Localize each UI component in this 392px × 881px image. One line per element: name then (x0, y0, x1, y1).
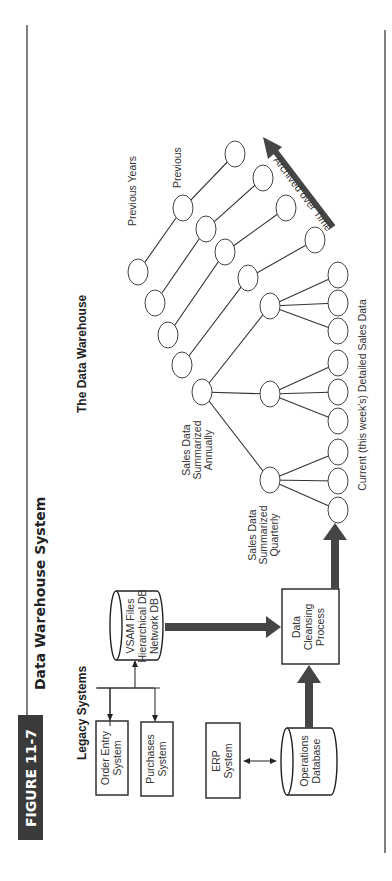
legacy-connector (96, 660, 160, 726)
svg-text:ERP: ERP (210, 750, 222, 772)
quarterly-node (260, 293, 280, 319)
archived-node (215, 239, 235, 265)
archived-over-time-arrow: Archived over Time (263, 137, 335, 233)
svg-text:System: System (222, 743, 234, 778)
archived-node (172, 352, 192, 378)
archived-node (253, 165, 273, 191)
data-cleansing-process-box: Data Cleansing Process (282, 589, 339, 664)
cleansing-to-warehouse-arrow (323, 523, 347, 589)
archived-node (305, 227, 325, 253)
svg-text:Annually: Annually (202, 429, 214, 470)
figure-badge: FIGURE 11-7 (18, 715, 43, 840)
quarterly-node (260, 467, 280, 493)
weekly-node (328, 379, 348, 405)
figure-canvas: FIGURE 11-7 Data Warehouse System Legacy… (0, 0, 392, 881)
svg-text:System: System (156, 741, 168, 776)
erp-operations-link (243, 758, 277, 764)
weekly-node (328, 439, 348, 465)
archived-node (196, 216, 216, 242)
svg-text:Network DB: Network DB (148, 598, 160, 654)
archived-node (238, 265, 258, 291)
svg-text:Hierarchical DB: Hierarchical DB (136, 590, 148, 663)
archived-node (225, 141, 245, 167)
svg-text:Purchases: Purchases (144, 734, 156, 784)
svg-text:Database: Database (310, 738, 322, 783)
annual-label: Sales Data Summarized Annually (180, 420, 214, 479)
current-data-label: Current (this week's) Detailed Sales Dat… (356, 299, 368, 491)
archived-node (158, 322, 178, 348)
weekly-node (328, 408, 348, 434)
archived-node (128, 259, 148, 285)
svg-text:Process: Process (314, 608, 326, 646)
operations-database: Operations Database (281, 728, 337, 795)
weekly-node (328, 262, 348, 288)
annual-node (192, 379, 212, 405)
svg-text:Cleansing: Cleansing (302, 603, 314, 650)
svg-text:Order Entry: Order Entry (99, 730, 111, 785)
weekly-node (328, 350, 348, 376)
svg-text:System: System (111, 740, 123, 775)
weekly-node (328, 318, 348, 344)
previous-label: Previous (171, 147, 183, 188)
archived-node (145, 290, 165, 316)
weekly-node (328, 497, 348, 523)
archived-node (276, 195, 296, 221)
weekly-node (328, 468, 348, 494)
archived-over-time-label: Archived over Time (271, 154, 335, 233)
data-warehouse-heading: The Data Warehouse (75, 294, 89, 413)
figure-number: FIGURE 11-7 (23, 729, 39, 827)
svg-text:VSAM Files: VSAM Files (124, 599, 136, 654)
quarterly-node (260, 381, 280, 407)
svg-text:Quarterly: Quarterly (268, 513, 280, 557)
vsam-to-cleansing-arrow (165, 616, 281, 638)
quarterly-label: Sales Data Summarized Quarterly (246, 505, 280, 564)
vsam-files-database: VSAM Files Hierarchical DB Network DB (110, 590, 163, 663)
purchases-system-box: Purchases System (141, 722, 173, 796)
erp-system-box: ERP System (206, 723, 240, 798)
svg-text:Operations: Operations (298, 735, 310, 786)
weekly-node (328, 290, 348, 316)
figure-title: Data Warehouse System (32, 497, 48, 690)
operations-to-cleansing-arrow (297, 665, 321, 728)
order-entry-system-box: Order Entry System (96, 721, 128, 795)
archived-node (173, 195, 193, 221)
svg-text:Data: Data (290, 616, 302, 638)
previous-years-label: Previous Years (126, 156, 138, 226)
legacy-systems-heading: Legacy Systems (75, 666, 89, 760)
